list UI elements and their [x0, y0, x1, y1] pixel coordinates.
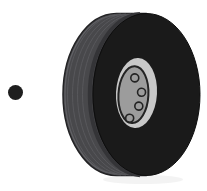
bullet-dot — [8, 85, 23, 100]
lug-hole — [131, 74, 139, 82]
lug-hole — [135, 102, 143, 110]
scene-canvas — [0, 0, 207, 191]
wheel-illustration — [63, 14, 200, 176]
lug-hole — [125, 114, 133, 122]
lug-hole — [137, 88, 145, 96]
ground-shadow — [103, 175, 183, 184]
